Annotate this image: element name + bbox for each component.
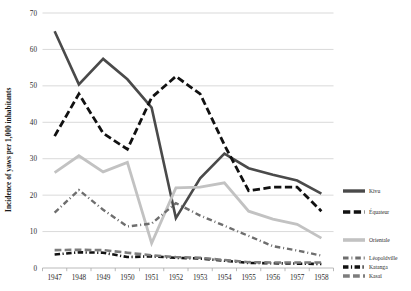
legend-label-katanga: Katanga: [369, 264, 388, 270]
legend-label-kasa-: Kasaï: [369, 273, 382, 279]
x-tick-label-1955: 1955: [241, 274, 256, 282]
x-tick-label-1951: 1951: [144, 274, 159, 282]
y-axis-title: Incidence of yaws per 1,000 inhabitants: [4, 88, 13, 212]
figure-container: 010203040506070 194719481949195019511952…: [0, 0, 411, 291]
legend-label--quateur: Équateur: [369, 208, 389, 215]
y-tick-label-40: 40: [30, 119, 38, 127]
legend-label-kivu: Kivu: [369, 188, 380, 194]
x-tick-label-1957: 1957: [290, 274, 305, 282]
x-tick-label-1953: 1953: [193, 274, 208, 282]
x-tick-label-1952: 1952: [169, 274, 184, 282]
y-tick-label-60: 60: [30, 46, 38, 54]
y-tick-label-70: 70: [30, 10, 38, 18]
x-tick-label-1949: 1949: [96, 274, 111, 282]
x-tick-label-1956: 1956: [266, 274, 281, 282]
y-tick-label-30: 30: [30, 155, 38, 163]
x-tick-label-1947: 1947: [47, 274, 62, 282]
x-tick-label-1954: 1954: [217, 274, 232, 282]
y-tick-label-50: 50: [30, 82, 38, 90]
legend-label-l-opoldville: Léopoldville: [369, 255, 398, 261]
x-tick-label-1950: 1950: [120, 274, 135, 282]
legend-label-orientale: Orientale: [369, 237, 390, 243]
y-tick-label-10: 10: [30, 228, 38, 236]
yaws-incidence-line-chart: 010203040506070 194719481949195019511952…: [0, 0, 411, 291]
x-tick-label-1958: 1958: [314, 274, 329, 282]
y-tick-label-0: 0: [33, 265, 37, 273]
x-tick-label-1948: 1948: [72, 274, 87, 282]
y-tick-label-20: 20: [30, 192, 38, 200]
